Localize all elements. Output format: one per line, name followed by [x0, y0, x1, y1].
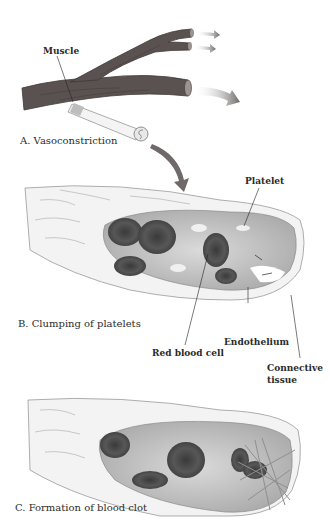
panel-a-vessel [22, 29, 194, 110]
panel-b-vessel [25, 186, 304, 358]
caption-panel-b: B. Clumping of platelets [18, 319, 141, 329]
transition-arrow [150, 144, 189, 192]
label-endothelium: Endothelium [224, 338, 289, 347]
panel-c-vessel [28, 398, 300, 516]
caption-panel-a: A. Vasoconstriction [20, 136, 117, 146]
diagram-illustration [0, 0, 330, 521]
caption-panel-c: C. Formation of blood clot [15, 503, 147, 513]
label-muscle: Muscle [43, 47, 79, 56]
label-connective-tissue-line2: tissue [267, 376, 297, 385]
flow-arrows [194, 30, 240, 106]
label-connective-tissue-line1: Connective [267, 364, 323, 373]
label-red-blood-cell: Red blood cell [152, 349, 224, 358]
label-platelet: Platelet [245, 177, 284, 186]
